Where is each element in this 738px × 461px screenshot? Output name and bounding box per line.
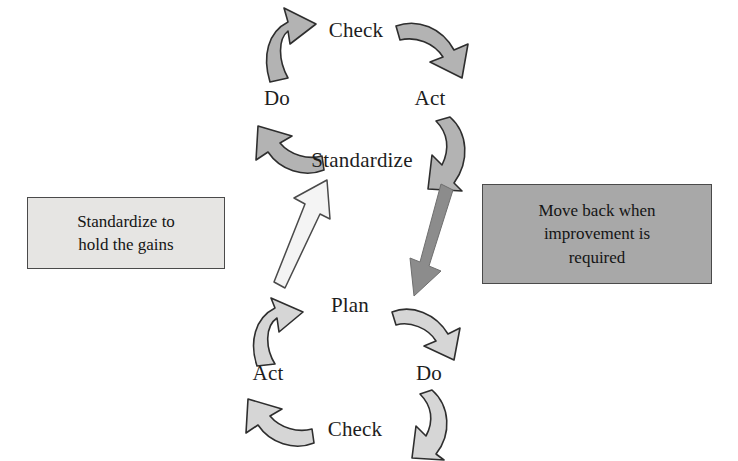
upper-cycle-label-standardize: Standardize — [311, 150, 412, 171]
upper-cycle-label-act: Act — [415, 88, 446, 109]
lower-cycle-label-plan: Plan — [331, 295, 369, 316]
lower-cycle-label-check: Check — [328, 419, 383, 440]
upper-cycle-label-check: Check — [329, 20, 384, 41]
curved-arrow-do-to-check-lower-icon — [396, 388, 458, 461]
curved-arrow-check-to-act-lower-icon — [240, 393, 320, 453]
standardize-to-hold-gains-arrow-icon — [272, 178, 336, 290]
note-right-line-2: improvement is — [538, 222, 655, 245]
note-standardize-to-hold-gains: Standardize to hold the gains — [27, 197, 225, 269]
move-back-for-improvement-arrow-icon — [408, 182, 458, 300]
note-left-line-1: Standardize to — [77, 210, 175, 233]
note-right-line-3: required — [538, 246, 655, 269]
curved-arrow-check-to-act-icon — [392, 16, 478, 92]
upper-cycle-label-do: Do — [264, 88, 290, 109]
curved-arrow-do-to-check-icon — [252, 4, 338, 88]
note-right-line-1: Move back when — [538, 199, 655, 222]
lower-cycle-label-act: Act — [253, 363, 284, 384]
diagram-canvas: Check Do Act Standardize — [0, 0, 738, 461]
note-left-line-2: hold the gains — [77, 233, 175, 256]
note-move-back-when-improvement-required: Move back when improvement is required — [482, 184, 712, 284]
lower-cycle-label-do: Do — [416, 363, 442, 384]
